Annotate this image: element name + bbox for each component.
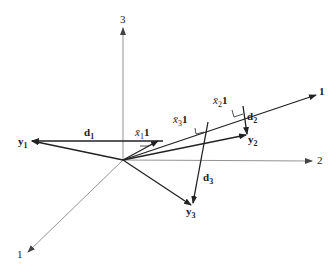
y1-label: y1: [18, 136, 28, 150]
d3-label: d3: [203, 172, 213, 186]
x3-label: x̄31: [173, 114, 187, 128]
one-label: 1: [319, 86, 325, 97]
y3-vector: [123, 160, 191, 205]
d2-label: d2: [247, 111, 257, 125]
axis-3-label: 3: [120, 14, 126, 25]
x1-label: x̄11: [135, 127, 149, 141]
y1-vector: [32, 141, 123, 160]
y2-label: y2: [248, 134, 258, 148]
d1-label: d1: [84, 127, 94, 141]
right-angle-3: [232, 110, 243, 117]
axis-2-line: [123, 160, 312, 161]
axis-2-label: 2: [317, 155, 323, 166]
vector-diagram: [0, 0, 331, 270]
axis-1-label: 1: [17, 249, 23, 260]
x2-label: x̄21: [213, 95, 227, 109]
axis-1-line: [28, 160, 123, 252]
y3-label: y3: [186, 206, 196, 220]
